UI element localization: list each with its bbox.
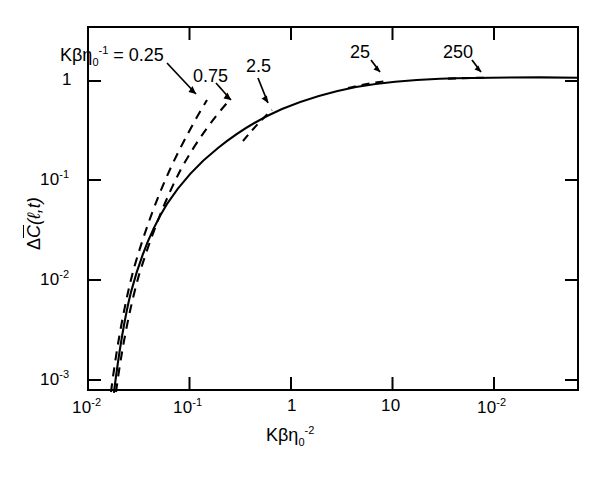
- figure-panel: 1 10-1 10-2 10-3 10-2 10-1 1 10 10-2 ΔC(…: [0, 0, 595, 480]
- y-tick-label-1e-1: 10-1: [40, 168, 69, 190]
- x-tick-label-1: 1: [287, 396, 297, 416]
- y-axis-title: ΔC(ℓ,t): [24, 197, 45, 250]
- x-axis-title: Kβη0-2: [266, 424, 314, 448]
- x-axis-ticks: [190, 377, 495, 390]
- y-axis-ticks: [88, 81, 101, 380]
- curve-branch-25b: [348, 81, 385, 88]
- x-tick-label-1e-2: 10-2: [72, 396, 101, 418]
- curve-asymptote-075: [116, 103, 227, 392]
- y-tick-label-1e-2: 10-2: [40, 268, 69, 290]
- y-tick-label-1e-3: 10-3: [40, 368, 69, 390]
- x-tick-label-1e-1: 10-1: [173, 396, 202, 418]
- curve-branch-25: [243, 110, 272, 141]
- label-2-5: 2.5: [246, 56, 271, 77]
- curve-asymptote-025: [111, 100, 207, 392]
- curve-master: [114, 77, 578, 392]
- y-tick-label-1: 1: [62, 70, 72, 90]
- label-0-75: 0.75: [193, 66, 228, 87]
- plot-frame: [88, 27, 578, 390]
- x-axis-ticks-top: [190, 27, 495, 40]
- label-25: 25: [350, 42, 370, 63]
- parameter-label: Kβη0-1 = 0.25: [60, 44, 164, 68]
- y-axis-ticks-right: [565, 81, 578, 380]
- label-250: 250: [443, 42, 473, 63]
- curve-branch-250: [448, 78, 490, 79]
- x-tick-label-10: 10: [381, 396, 400, 416]
- x-tick-label-1e2: 10-2: [477, 396, 506, 418]
